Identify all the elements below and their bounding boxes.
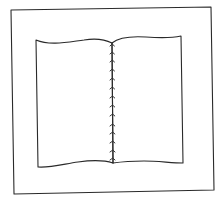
right-page [112,36,183,163]
open-book-illustration [0,0,222,205]
book-icon [36,36,183,167]
left-page [36,39,113,167]
